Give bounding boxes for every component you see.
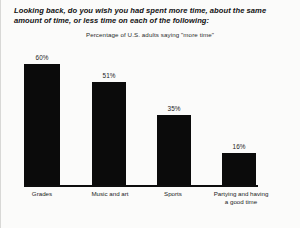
category-label: Grades — [10, 190, 74, 198]
bar-slot: 16% — [222, 48, 256, 185]
bar-slot: 35% — [157, 48, 191, 185]
bar-slot: 60% — [24, 48, 60, 185]
bar-value-label: 60% — [36, 54, 49, 61]
bar-value-label: 35% — [168, 105, 181, 112]
plot-area: 60%51%35%16% — [24, 48, 258, 187]
x-axis-category-labels: GradesMusic and artSportsPartying and ha… — [24, 190, 264, 220]
category-label: Partying and having a good time — [200, 190, 282, 205]
bar — [24, 64, 60, 185]
bar — [222, 153, 256, 185]
category-label: Sports — [142, 190, 204, 198]
category-label: Music and art — [74, 190, 146, 198]
chart-page: Looking back, do you wish you had spent … — [0, 0, 300, 228]
bar-value-label: 51% — [103, 72, 116, 79]
chart-subtitle: Percentage of U.S. adults saying "more t… — [0, 31, 300, 39]
bar-value-label: 16% — [233, 143, 246, 150]
bar — [92, 82, 126, 185]
bar-slot: 51% — [92, 48, 126, 185]
x-axis-line — [24, 185, 258, 187]
page-title: Looking back, do you wish you had spent … — [14, 6, 290, 25]
bar — [157, 115, 191, 186]
bar-series: 60%51%35%16% — [24, 48, 258, 185]
